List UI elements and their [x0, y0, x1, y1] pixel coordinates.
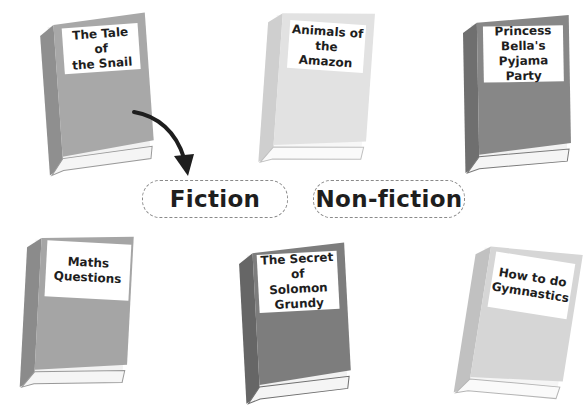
book-title-line: Grundy [274, 296, 324, 313]
book-title-line: The Tale of [72, 24, 129, 55]
category-label: Non-fiction [316, 186, 463, 212]
book-how-to-do-gymnastics[interactable]: How to doGymnastics [449, 236, 586, 403]
book-animals-of-the-amazon[interactable]: Animals ofthe Amazon [253, 4, 383, 162]
book-title-line: The Secret [260, 250, 333, 268]
book-secret-of-solomon-grundy[interactable]: The Secretof SolomonGrundy [232, 240, 360, 396]
book-title-line: the Snail [72, 54, 133, 72]
book-maths-questions[interactable]: MathsQuestions [14, 229, 142, 385]
book-title-line: Animals of [292, 22, 364, 41]
category-label: Fiction [170, 186, 260, 212]
category-fiction[interactable]: Fiction [142, 180, 288, 218]
book-title-line: of Solomon [269, 267, 328, 298]
book-title-line: Bella's [501, 39, 546, 54]
category-non-fiction[interactable]: Non-fiction [313, 180, 465, 218]
book-princess-bellas-pyjama-party[interactable]: PrincessBella'sPyjama Party [457, 13, 580, 165]
book-title-line: the Amazon [298, 38, 353, 70]
curved-arrow-icon [128, 106, 198, 186]
book-title-line: Pyjama Party [499, 53, 549, 83]
book-title-line: Questions [53, 269, 121, 287]
book-title-line: Princess [494, 23, 551, 38]
book-title-line: Maths [67, 254, 109, 270]
